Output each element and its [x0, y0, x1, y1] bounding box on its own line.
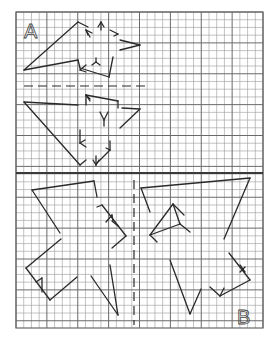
shape-stroke — [94, 181, 97, 197]
shape-stroke — [92, 62, 96, 65]
shape-stroke — [170, 260, 190, 314]
shape-stroke — [104, 112, 108, 120]
grid-major-lines — [16, 12, 263, 328]
shape-stroke — [80, 143, 86, 147]
shape-stroke — [112, 215, 113, 221]
shape-stroke — [80, 70, 86, 72]
shape-stroke — [122, 108, 140, 109]
shape-stroke — [141, 178, 250, 188]
shape-stroke — [78, 60, 80, 68]
section-label-a: A — [24, 20, 38, 42]
shape-stroke — [97, 205, 102, 207]
shape-a-original — [24, 22, 140, 77]
shape-stroke — [86, 95, 118, 101]
shape-stroke — [80, 68, 109, 77]
shape-stroke — [100, 112, 104, 120]
shape-stroke — [91, 276, 118, 315]
shape-stroke — [141, 188, 150, 212]
shape-stroke — [24, 102, 80, 165]
section-label-b: B — [237, 306, 250, 328]
shape-stroke — [210, 287, 220, 296]
shape-stroke — [120, 109, 140, 128]
shape-stroke — [50, 277, 77, 300]
shape-stroke — [224, 178, 250, 239]
shape-stroke — [80, 160, 86, 165]
shape-stroke — [32, 181, 94, 190]
shape-stroke — [80, 140, 85, 143]
shape-stroke — [32, 190, 60, 233]
reflection-worksheet: A B — [0, 0, 275, 343]
shape-b-right-half — [141, 178, 250, 314]
shape-stroke — [96, 62, 100, 65]
shape-stroke — [120, 45, 140, 50]
shape-a-reflection — [24, 95, 140, 165]
shape-stroke — [114, 34, 118, 36]
shape-b-left-half — [26, 181, 126, 315]
shape-stroke — [110, 30, 118, 34]
shape-stroke — [190, 289, 201, 314]
shape-stroke — [78, 22, 88, 27]
